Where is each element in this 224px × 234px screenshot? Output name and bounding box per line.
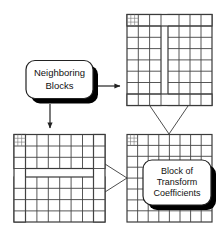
transform-callout-line2: Transform — [157, 177, 198, 187]
diagram-canvas: Neighboring Blocks Block of Transform Co… — [0, 0, 224, 234]
block-top-right-bottom-strip — [127, 94, 212, 106]
neighboring-blocks-line2: Blocks — [46, 80, 74, 91]
connector-row-to-block — [105, 164, 127, 192]
neighboring-blocks-callout[interactable]: Neighboring Blocks — [26, 61, 98, 104]
neighboring-blocks-line1: Neighboring — [34, 67, 85, 78]
block-top-right — [127, 15, 212, 106]
block-transform-diagram: Neighboring Blocks Block of Transform Co… — [0, 0, 224, 234]
transform-callout-line1: Block of — [161, 166, 194, 176]
block-top-right-top-strip — [127, 15, 212, 27]
block-of-transform-coefficients-callout[interactable]: Block of Transform Coefficients — [143, 160, 216, 210]
block-bottom-left-right-strip — [94, 135, 106, 223]
block-bottom-left — [14, 135, 105, 223]
block-bottom-left-left-strip — [14, 135, 26, 223]
transform-callout-line3: Coefficients — [154, 188, 201, 198]
connector-column-to-block — [150, 106, 188, 134]
